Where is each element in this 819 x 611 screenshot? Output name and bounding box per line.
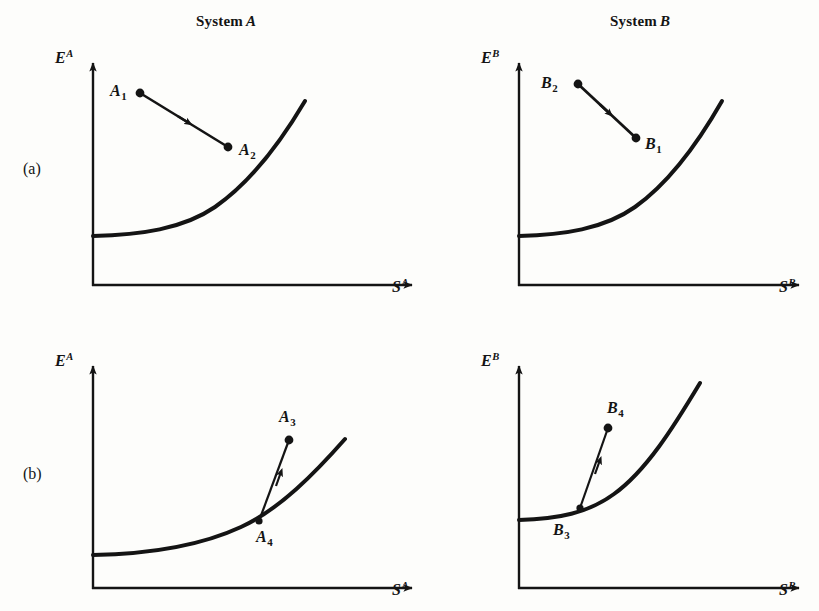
equilibrium-curve	[93, 101, 305, 236]
figure-canvas	[0, 0, 819, 611]
equilibrium-curve	[519, 101, 722, 236]
data-point-b1	[632, 134, 641, 143]
data-point-a4	[255, 517, 262, 524]
panel-a-system-a-graphics	[92, 63, 412, 286]
panel-a-system-b-graphics	[518, 63, 799, 286]
panel-b-system-b-graphics	[518, 366, 799, 589]
process-arrow-head-a1-a2	[178, 116, 189, 123]
data-point-b2	[574, 80, 583, 89]
data-point-a3	[285, 436, 294, 445]
thermodynamic-figure: SystemA SystemB (a) (b) EA SA EB SB EA S…	[0, 0, 819, 611]
equilibrium-curve	[519, 383, 700, 520]
process-arrow-b3-b4	[580, 428, 608, 508]
data-point-b4	[604, 424, 613, 433]
data-point-a2	[224, 143, 233, 152]
process-arrow-head-b2-b1	[600, 105, 610, 114]
data-point-a1	[136, 89, 145, 98]
equilibrium-curve	[93, 439, 345, 555]
panel-b-system-a-graphics	[92, 366, 412, 589]
data-point-b3	[576, 504, 583, 511]
